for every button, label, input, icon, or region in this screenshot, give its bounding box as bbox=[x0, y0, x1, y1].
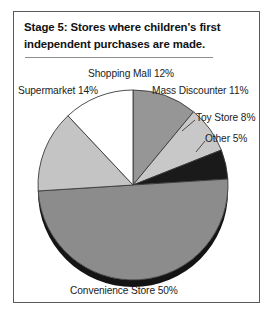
slice-label-supermarket: Supermarket 14% bbox=[18, 85, 98, 96]
pie-container: Mass Discounter 11%Toy Store 8%Other 5%C… bbox=[0, 0, 275, 320]
slice-label-other: Other 5% bbox=[205, 133, 247, 144]
slice-label-shopping-mall: Shopping Mall 12% bbox=[88, 68, 174, 79]
slice-label-mass-discounter: Mass Discounter 11% bbox=[152, 85, 248, 96]
slice-label-convenience-store: Convenience Store 50% bbox=[70, 285, 178, 296]
pie-chart-figure: Stage 5: Stores where children's first i… bbox=[0, 0, 275, 320]
pie-slice-convenience-store[interactable]: Convenience Store 50% bbox=[38, 179, 228, 280]
pie-svg: Mass Discounter 11%Toy Store 8%Other 5%C… bbox=[0, 0, 275, 320]
slice-label-toy-store: Toy Store 8% bbox=[196, 112, 255, 123]
